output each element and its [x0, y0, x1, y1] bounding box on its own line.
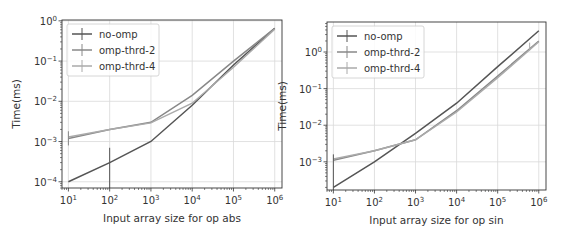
x-tick-label: 101 [325, 196, 342, 208]
y-tick-label: 10−3 [34, 136, 57, 148]
chart-2: 10110210310410510610−310−210−1100no-ompo… [276, 22, 548, 226]
x-tick-label: 105 [489, 196, 506, 208]
legend-label: omp-thrd-2 [364, 47, 420, 58]
x-tick-label: 106 [266, 194, 284, 206]
y-axis-label: Time(ms) [276, 81, 288, 132]
y-tick-label: 10−2 [34, 95, 57, 107]
y-tick-label: 10−2 [299, 119, 322, 131]
y-tick-label: 10−1 [34, 55, 57, 67]
x-tick-label: 102 [101, 194, 118, 206]
legend-label: omp-thrd-4 [364, 63, 420, 74]
chart-1: 10110210310410510610−410−310−210−1100no-… [10, 15, 284, 224]
x-tick-label: 106 [530, 196, 548, 208]
legend: no-ompomp-thrd-2omp-thrd-4 [332, 26, 424, 78]
x-tick-label: 103 [407, 196, 424, 208]
x-tick-label: 105 [225, 194, 242, 206]
legend: no-ompomp-thrd-2omp-thrd-4 [67, 24, 159, 76]
y-tick-label: 10−1 [299, 83, 322, 95]
x-tick-label: 103 [142, 194, 159, 206]
x-tick-label: 104 [448, 196, 466, 208]
y-tick-label: 100 [305, 46, 322, 58]
legend-label: no-omp [99, 29, 138, 40]
x-axis-label: Input array size for op sin [369, 214, 503, 226]
y-axis-label: Time(ms) [10, 79, 22, 130]
x-tick-label: 104 [184, 194, 202, 206]
y-tick-label: 10−3 [299, 156, 322, 168]
x-tick-label: 102 [366, 196, 383, 208]
legend-label: omp-thrd-2 [99, 45, 155, 56]
y-tick-label: 10−4 [34, 176, 58, 188]
legend-label: omp-thrd-4 [99, 61, 155, 72]
legend-label: no-omp [364, 31, 403, 42]
x-tick-label: 101 [60, 194, 77, 206]
x-axis-label: Input array size for op abs [103, 212, 241, 224]
y-tick-label: 100 [40, 15, 57, 27]
figure: 10110210310410510610−410−310−210−1100no-… [0, 0, 562, 234]
